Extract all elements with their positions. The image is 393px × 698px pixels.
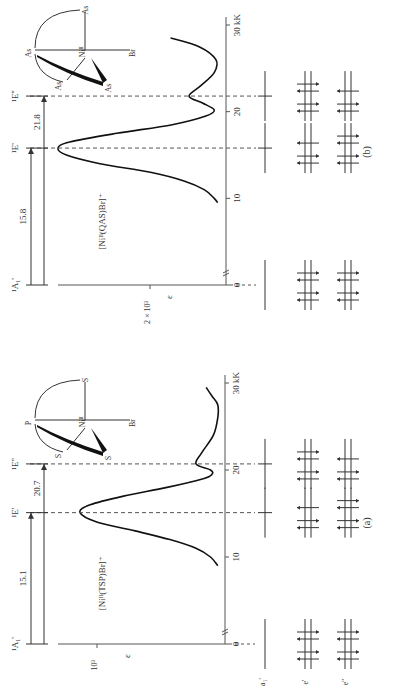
panel-caption: (b)	[361, 146, 373, 158]
energy-tick-label: 30 kK	[232, 13, 242, 36]
arrowhead	[297, 457, 300, 461]
energy-tick-label: 30 kK	[231, 371, 241, 394]
arrowhead	[297, 161, 300, 165]
ligand-atom: As	[104, 84, 113, 93]
epsilon-tick-label: 10³	[90, 659, 99, 670]
state-label-E-prime: ¹E'	[10, 143, 20, 153]
arrowhead	[337, 89, 340, 93]
metal-label: Niᴵᴵ	[78, 416, 87, 428]
wedge-bond	[37, 55, 103, 86]
arrowhead	[356, 102, 359, 106]
state-label-E-double-prime: ¹E''	[10, 458, 20, 470]
arrowhead	[337, 457, 340, 461]
ligand-atom: As	[81, 6, 90, 15]
chelate-arc	[35, 380, 80, 418]
arrowhead	[337, 298, 340, 302]
energy-tick-label: 20	[231, 465, 241, 475]
arrowhead	[316, 271, 319, 275]
arrowhead	[41, 96, 47, 102]
arrowhead	[41, 464, 47, 470]
arrowhead	[28, 513, 34, 519]
arrowhead	[337, 506, 340, 510]
complex-name: [Niᴵᴵ(TSP)Br]⁺	[97, 556, 107, 610]
ligand-atom: S	[54, 454, 63, 458]
arrowhead	[356, 519, 359, 523]
arrowhead	[297, 637, 300, 641]
epsilon-axis-label: ε	[122, 654, 132, 658]
epsilon-tick-label: 2 × 10³	[143, 300, 152, 324]
arrowhead	[356, 134, 359, 138]
arrowhead	[316, 630, 319, 634]
arrowhead	[316, 154, 319, 158]
arrowhead	[356, 630, 359, 634]
panel-a: 0102030 kK10³ε¹A₁'¹E'¹E''15.120.7[Niᴵᴵ(T…	[10, 371, 373, 686]
arrowhead	[297, 298, 300, 302]
arrowhead	[316, 470, 319, 474]
arrowhead	[316, 450, 319, 454]
ligand-atom: As	[24, 49, 33, 58]
arrowhead	[297, 278, 300, 282]
arrowhead	[297, 506, 300, 510]
arrowhead	[297, 526, 300, 530]
arrowhead	[316, 291, 319, 295]
orbital-label-e-double-prime: e''	[341, 678, 350, 685]
energy-tick-label: 10	[231, 552, 241, 562]
arrowhead	[316, 650, 319, 654]
ligand-atom: Br	[128, 49, 137, 57]
orbital-label-e-prime: e'	[301, 679, 310, 685]
state-label-A1: ¹A₁'	[10, 637, 20, 651]
ligand-atom: P	[24, 420, 33, 425]
absorption-spectrum-curve	[58, 38, 218, 203]
arrowhead	[337, 657, 340, 661]
arrowhead	[356, 470, 359, 474]
arrowhead	[337, 161, 340, 165]
arrowhead	[337, 526, 340, 530]
arrowhead	[297, 141, 300, 145]
ligand-atom: As	[54, 82, 63, 91]
wedge-bond	[37, 425, 103, 456]
figure-canvas: 0102030 kK2 × 10³ε¹A₁'¹E'¹E''15.821.8[Ni…	[0, 0, 393, 698]
energy-tick-label: 20	[232, 107, 242, 117]
ligand-atom: S	[104, 456, 113, 460]
ligand-atom: S	[81, 378, 90, 382]
absorption-spectrum-curve	[80, 387, 219, 565]
transition-energy-label-1: 15.1	[18, 570, 28, 586]
panel-caption: (a)	[361, 517, 373, 528]
transition-energy-label-2: 20.7	[32, 480, 42, 496]
arrowhead	[356, 154, 359, 158]
arrowhead	[28, 148, 34, 154]
complex-name: [Niᴵᴵ(QAS)Br]⁺	[97, 193, 107, 250]
arrowhead	[297, 657, 300, 661]
arrowhead	[297, 89, 300, 93]
arrowhead	[337, 109, 340, 113]
arrowhead	[356, 291, 359, 295]
arrowhead	[316, 519, 319, 523]
epsilon-axis-label: ε	[164, 295, 174, 299]
energy-tick-label: 10	[232, 193, 242, 203]
arrowhead	[356, 650, 359, 654]
arrowhead	[356, 499, 359, 503]
arrowhead	[337, 141, 340, 145]
state-label-E-double-prime: ¹E''	[10, 90, 20, 102]
arrowhead	[316, 102, 319, 106]
orbital-label-a1: a₁'	[258, 678, 267, 686]
chelate-arc	[35, 10, 80, 48]
arrowhead	[337, 637, 340, 641]
transition-energy-label-2: 21.8	[32, 114, 42, 130]
arrowhead	[297, 477, 300, 481]
ligand-atom: Br	[128, 419, 137, 427]
arrowhead	[297, 109, 300, 113]
arrowhead	[356, 271, 359, 275]
arrowhead	[316, 82, 319, 86]
arrowhead	[337, 477, 340, 481]
state-label-A1: ¹A₁'	[10, 278, 20, 292]
panel-b: 0102030 kK2 × 10³ε¹A₁'¹E'¹E''15.821.8[Ni…	[10, 6, 373, 324]
transition-energy-label-1: 15.8	[18, 208, 28, 224]
state-label-E-prime: ¹E'	[10, 507, 20, 517]
arrowhead	[337, 278, 340, 282]
metal-label: Niᴵᴵ	[78, 46, 87, 58]
